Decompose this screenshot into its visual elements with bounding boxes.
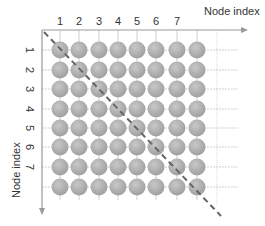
node-7-5 (129, 159, 146, 176)
y-tick-2: 2 (24, 67, 36, 73)
node-7-4 (110, 159, 127, 176)
y-tick-6: 6 (24, 144, 36, 150)
x-tick-1: 1 (57, 15, 63, 27)
node-matrix-diagram: 1234567 1234567 Node index Node index (0, 0, 265, 226)
node-8-8 (189, 179, 206, 196)
node-7-1 (52, 159, 69, 176)
node-6-5 (129, 139, 146, 156)
y-axis-arrow-icon (39, 208, 45, 215)
y-axis-label: Node index (10, 142, 22, 198)
node-3-1 (52, 81, 69, 98)
node-2-5 (129, 62, 146, 79)
node-4-8 (189, 101, 206, 118)
node-4-1 (52, 101, 69, 118)
node-6-1 (52, 139, 69, 156)
node-1-6 (148, 42, 165, 59)
node-7-2 (71, 159, 88, 176)
node-1-8 (189, 42, 206, 59)
node-3-4 (110, 81, 127, 98)
node-2-3 (91, 62, 108, 79)
node-2-8 (189, 62, 206, 79)
x-tick-7: 7 (174, 15, 180, 27)
node-3-7 (169, 81, 186, 98)
node-8-2 (71, 179, 88, 196)
node-5-7 (169, 120, 186, 137)
node-4-2 (71, 101, 88, 118)
node-3-8 (189, 81, 206, 98)
y-tick-1: 1 (24, 47, 36, 53)
node-5-2 (71, 120, 88, 137)
y-tick-4: 4 (24, 106, 36, 112)
node-8-5 (129, 179, 146, 196)
x-tick-5: 5 (134, 15, 140, 27)
node-6-7 (169, 139, 186, 156)
node-2-7 (169, 62, 186, 79)
node-5-6 (148, 120, 165, 137)
x-tick-2: 2 (76, 15, 82, 27)
node-6-3 (91, 139, 108, 156)
y-tick-5: 5 (24, 125, 36, 131)
y-tick-3: 3 (24, 86, 36, 92)
node-4-6 (148, 101, 165, 118)
node-5-1 (52, 120, 69, 137)
node-4-7 (169, 101, 186, 118)
node-1-7 (169, 42, 186, 59)
x-tick-labels: 1234567 (57, 15, 180, 27)
node-4-3 (91, 101, 108, 118)
node-8-6 (148, 179, 165, 196)
node-5-4 (110, 120, 127, 137)
node-6-8 (189, 139, 206, 156)
x-axis-arrow-icon (241, 27, 248, 33)
node-7-7 (169, 159, 186, 176)
node-6-2 (71, 139, 88, 156)
node-5-8 (189, 120, 206, 137)
node-2-4 (110, 62, 127, 79)
node-2-1 (52, 62, 69, 79)
node-1-5 (129, 42, 146, 59)
y-tick-labels: 1234567 (24, 47, 36, 170)
node-2-6 (148, 62, 165, 79)
y-tick-7: 7 (24, 164, 36, 170)
node-4-5 (129, 101, 146, 118)
node-3-6 (148, 81, 165, 98)
x-tick-6: 6 (153, 15, 159, 27)
x-tick-3: 3 (96, 15, 102, 27)
node-7-8 (189, 159, 206, 176)
node-3-5 (129, 81, 146, 98)
node-3-2 (71, 81, 88, 98)
node-1-4 (110, 42, 127, 59)
node-1-3 (91, 42, 108, 59)
node-8-7 (169, 179, 186, 196)
node-8-4 (110, 179, 127, 196)
node-5-3 (91, 120, 108, 137)
x-tick-4: 4 (115, 15, 121, 27)
node-8-3 (91, 179, 108, 196)
node-6-4 (110, 139, 127, 156)
node-8-1 (52, 179, 69, 196)
x-axis-label: Node index (204, 5, 260, 17)
node-7-3 (91, 159, 108, 176)
node-7-6 (148, 159, 165, 176)
node-1-2 (71, 42, 88, 59)
